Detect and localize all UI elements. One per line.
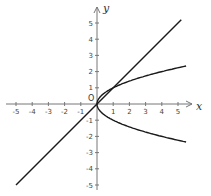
line-y-equals-x [16, 20, 181, 185]
coordinate-plane: -5-4-3-2-11234554321-1-2-3-4-5 x y O [0, 0, 211, 196]
y-axis-label: y [102, 2, 110, 15]
x-tick-label: -3 [45, 108, 52, 116]
x-axis-label: x [196, 100, 203, 113]
x-tick-label: 3 [143, 108, 147, 116]
x-tick-label: -1 [77, 108, 84, 116]
y-tick-label: -1 [86, 117, 93, 125]
x-tick-label: 5 [176, 108, 180, 116]
y-tick-label: -2 [86, 133, 93, 141]
y-tick-label: 5 [89, 20, 93, 28]
origin-label: O [88, 94, 94, 103]
y-tick-label: -5 [86, 182, 93, 190]
y-tick-label: 3 [89, 52, 93, 60]
graph-container: -5-4-3-2-11234554321-1-2-3-4-5 x y O [0, 0, 211, 196]
x-tick-label: -2 [61, 108, 68, 116]
y-tick-label: 1 [89, 84, 93, 92]
x-tick-label: 4 [160, 108, 165, 116]
x-tick-label: 2 [127, 108, 131, 116]
x-tick-label: 1 [111, 108, 115, 116]
x-tick-label: -5 [13, 108, 20, 116]
x-tick-label: -4 [29, 108, 37, 116]
y-tick-label: 4 [89, 36, 94, 44]
curves [16, 20, 186, 185]
y-tick-label: 2 [89, 68, 93, 76]
y-tick-label: -4 [86, 165, 94, 173]
y-tick-label: -3 [86, 149, 93, 157]
